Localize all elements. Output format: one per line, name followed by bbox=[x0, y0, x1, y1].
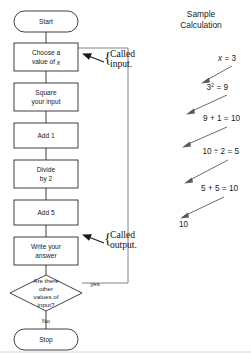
called-output-line2: output. bbox=[110, 239, 137, 250]
node-add-1[interactable]: Add 1 bbox=[14, 123, 78, 148]
calc-arrow-5 bbox=[184, 197, 224, 216]
square-input-label-line2: your input bbox=[32, 98, 61, 106]
square-input-label-line1: Square bbox=[35, 89, 57, 97]
calc-arrow-2-head bbox=[186, 109, 195, 115]
called-input-line2: input. bbox=[110, 58, 132, 69]
called-input-arrowhead bbox=[82, 53, 92, 60]
choose-value-label-line1: Choose a bbox=[32, 49, 61, 56]
flowchart-diagram: Start Choose a value of x Square your in… bbox=[0, 0, 251, 355]
divide-by-2-label-line2: by 2 bbox=[40, 175, 53, 183]
node-start[interactable]: Start bbox=[14, 11, 78, 32]
divide-by-2-label-line1: Divide bbox=[37, 166, 56, 173]
choose-value-label-line2: value of x bbox=[32, 58, 61, 65]
calc-step-result: 10 bbox=[179, 220, 189, 229]
edge-label-yes: yes bbox=[90, 280, 100, 287]
calc-step-square: 32 = 9 bbox=[207, 82, 229, 92]
square-input-box bbox=[14, 83, 78, 111]
node-decision[interactable]: Are there other values of input? bbox=[10, 275, 82, 311]
calc-arrow-5-head bbox=[180, 213, 189, 219]
calc-step-x: x = 3 bbox=[217, 54, 236, 63]
write-answer-box bbox=[14, 237, 78, 265]
calc-arrow-4-head bbox=[184, 178, 193, 184]
calc-arrow-4 bbox=[188, 160, 228, 181]
called-output-arrowhead bbox=[82, 234, 92, 241]
decision-label-line4: input? bbox=[38, 301, 55, 308]
node-choose-value[interactable]: Choose a value of x bbox=[14, 43, 78, 71]
node-write-answer[interactable]: Write your answer bbox=[14, 237, 78, 265]
sample-calculation-panel: Sample Calculation x = 3 32 = 9 9 + 1 = … bbox=[179, 9, 241, 229]
annotation-called-output: { Called output. bbox=[82, 229, 137, 251]
called-output-line1: Called bbox=[110, 229, 135, 240]
figure-root: Start Choose a value of x Square your in… bbox=[0, 0, 251, 355]
sample-calculation-title-line2: Calculation bbox=[180, 20, 222, 30]
calc-arrow-3 bbox=[186, 127, 227, 145]
annotation-called-input: { Called input. bbox=[82, 48, 135, 70]
node-add-5[interactable]: Add 5 bbox=[14, 200, 78, 225]
node-square-input[interactable]: Square your input bbox=[14, 83, 78, 111]
add-1-label: Add 1 bbox=[37, 132, 55, 139]
calc-step-add5: 5 + 5 = 10 bbox=[201, 184, 238, 193]
calc-arrow-2 bbox=[190, 95, 227, 112]
start-label: Start bbox=[39, 18, 53, 25]
write-answer-label-line1: Write your bbox=[31, 243, 62, 251]
calc-step-divide: 10 ÷ 2 = 5 bbox=[202, 147, 239, 156]
divide-by-2-box bbox=[14, 160, 78, 188]
choose-value-box bbox=[14, 43, 78, 71]
node-divide-by-2[interactable]: Divide by 2 bbox=[14, 160, 78, 188]
sample-calculation-title-line1: Sample bbox=[187, 9, 216, 19]
calc-step-add1: 9 + 1 = 10 bbox=[203, 114, 240, 123]
add-5-label: Add 5 bbox=[37, 209, 55, 216]
called-input-line1: Called bbox=[110, 48, 135, 59]
node-stop[interactable]: Stop bbox=[14, 329, 78, 350]
decision-label-line2: other bbox=[39, 285, 53, 292]
decision-label-line1: Are there bbox=[33, 277, 59, 284]
edge-label-no: No bbox=[42, 317, 50, 324]
write-answer-label-line2: answer bbox=[35, 252, 57, 259]
calc-arrow-3-head bbox=[182, 142, 191, 148]
decision-label-line3: values of bbox=[34, 293, 59, 300]
stop-label: Stop bbox=[39, 336, 53, 344]
